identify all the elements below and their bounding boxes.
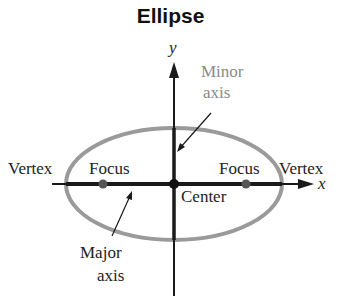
y-axis-label: y <box>167 38 177 57</box>
ellipse-diagram: y x Minor axis Vertex Focus Focus Vertex… <box>0 0 341 306</box>
focus-left-label: Focus <box>89 159 130 178</box>
minor-axis-label-line2: axis <box>203 83 230 102</box>
major-axis-label-line2: axis <box>97 266 124 285</box>
x-axis-arrow-icon <box>298 179 314 189</box>
focus-left-point <box>99 180 108 189</box>
vertex-right-label: Vertex <box>279 159 324 178</box>
major-axis-label-line1: Major <box>80 243 122 262</box>
vertex-left-label: Vertex <box>8 159 53 178</box>
minor-axis-label-line1: Minor <box>201 62 244 81</box>
center-point <box>169 179 179 189</box>
major-axis-pointer <box>112 196 130 236</box>
center-label: Center <box>181 187 227 206</box>
y-axis-arrow-icon <box>169 62 179 78</box>
major-axis-pointer-arrow-icon <box>126 191 132 200</box>
focus-right-point <box>242 180 251 189</box>
focus-right-label: Focus <box>219 159 260 178</box>
